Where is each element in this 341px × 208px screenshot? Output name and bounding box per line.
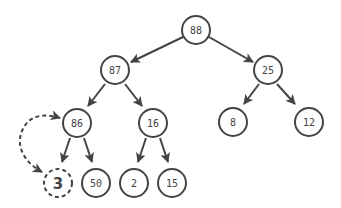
svg-text:3: 3: [53, 175, 63, 193]
edge-87-86: [88, 84, 105, 106]
svg-text:8: 8: [230, 117, 236, 128]
node-87: 87: [101, 56, 129, 84]
edge-16-15: [160, 138, 168, 162]
node-2: 2: [120, 169, 148, 197]
edge-88-87: [131, 37, 183, 62]
svg-text:25: 25: [262, 65, 274, 76]
edge-87-16: [125, 84, 142, 106]
edge-25-12: [277, 84, 295, 104]
svg-text:16: 16: [147, 118, 159, 129]
svg-text:50: 50: [90, 178, 102, 189]
svg-text:87: 87: [109, 65, 121, 76]
svg-text:2: 2: [131, 178, 137, 189]
edge-25-8: [244, 84, 259, 104]
node-86: 86: [63, 109, 91, 137]
node-88: 88: [182, 16, 210, 44]
node-15: 15: [158, 169, 186, 197]
swap-arrow: [20, 116, 60, 172]
svg-text:88: 88: [190, 25, 202, 36]
svg-text:86: 86: [71, 118, 83, 129]
node-25: 25: [254, 56, 282, 84]
node-12: 12: [295, 108, 323, 136]
svg-text:15: 15: [166, 178, 178, 189]
node-50: 50: [82, 169, 110, 197]
node-8: 8: [219, 108, 247, 136]
node-3-inserted: 3: [44, 169, 72, 197]
edge-16-2: [138, 138, 146, 162]
edges: [20, 37, 295, 172]
node-16: 16: [139, 109, 167, 137]
heap-tree-diagram: 88 87 25 86 16 8 12 3 50 2 15: [0, 0, 341, 208]
svg-text:12: 12: [303, 117, 315, 128]
edge-86-3: [62, 138, 70, 162]
edge-88-25: [209, 37, 253, 62]
edge-86-50: [84, 138, 92, 162]
